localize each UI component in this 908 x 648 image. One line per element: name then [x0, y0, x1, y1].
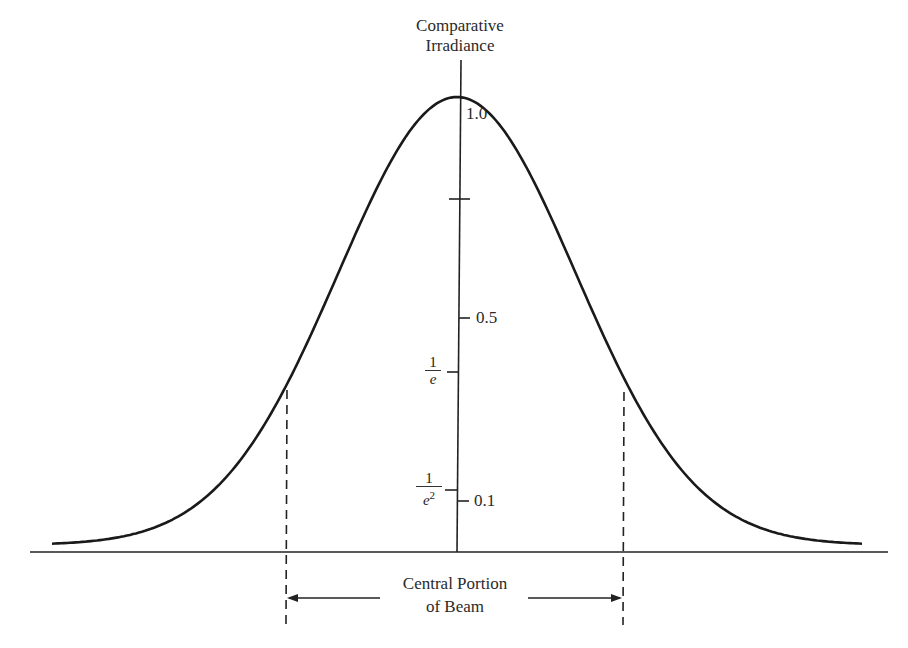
inv-e2-base: e	[423, 492, 430, 508]
tick-label-0.1: 0.1	[474, 491, 495, 511]
tick-label-inv-e: 1 e	[425, 354, 441, 387]
inv-e-numerator: 1	[425, 354, 441, 371]
y-axis-title: Comparative Irradiance	[400, 16, 520, 56]
tick-label-1.0: 1.0	[466, 104, 487, 124]
inv-e-denominator: e	[425, 371, 441, 387]
left-dashed-marker	[286, 390, 287, 625]
y-axis	[457, 60, 461, 552]
y-axis-title-line2: Irradiance	[400, 36, 520, 56]
left-arrowhead-icon	[287, 594, 298, 602]
central-portion-line2: of Beam	[370, 597, 540, 617]
y-axis-title-line1: Comparative	[400, 16, 520, 36]
tick-label-0.5: 0.5	[476, 308, 497, 328]
inv-e2-denominator: e2	[416, 487, 442, 508]
right-dashed-marker	[623, 392, 624, 625]
tick-label-inv-e2: 1 e2	[416, 470, 442, 508]
central-portion-line1: Central Portion	[370, 574, 540, 594]
right-arrowhead-icon	[611, 594, 622, 602]
inv-e2-exponent: 2	[430, 489, 436, 501]
beam-profile-diagram	[0, 0, 908, 648]
central-portion-label: Central Portion of Beam	[370, 574, 540, 617]
inv-e2-numerator: 1	[416, 470, 442, 487]
